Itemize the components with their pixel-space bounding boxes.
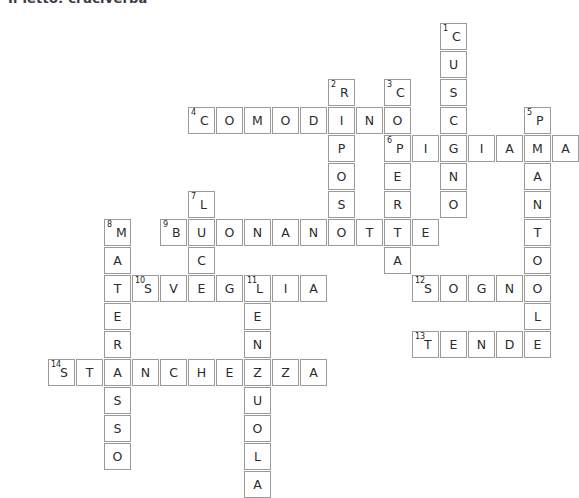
crossword-cell[interactable]: A <box>104 247 131 274</box>
crossword-cell[interactable]: U <box>188 219 215 246</box>
crossword-cell[interactable]: S <box>104 415 131 442</box>
crossword-cell[interactable]: O <box>216 219 243 246</box>
cell-letter: N <box>441 164 466 189</box>
crossword-cell[interactable]: O <box>104 443 131 470</box>
crossword-cell[interactable]: P <box>328 135 355 162</box>
crossword-cell[interactable]: D <box>300 107 327 134</box>
crossword-cell[interactable]: N <box>244 219 271 246</box>
crossword-cell[interactable]: 14S <box>48 359 75 386</box>
crossword-cell[interactable]: N <box>496 275 523 302</box>
crossword-cell[interactable]: S <box>328 191 355 218</box>
crossword-cell[interactable]: 11L <box>244 275 271 302</box>
crossword-cell[interactable]: O <box>524 247 551 274</box>
crossword-cell[interactable]: M <box>524 135 551 162</box>
crossword-cell[interactable]: A <box>104 359 131 386</box>
crossword-cell[interactable]: O <box>244 415 271 442</box>
crossword-cell[interactable]: V <box>160 275 187 302</box>
crossword-cell[interactable]: E <box>524 331 551 358</box>
crossword-cell[interactable]: N <box>440 163 467 190</box>
crossword-cell[interactable]: E <box>216 359 243 386</box>
crossword-cell[interactable]: O <box>384 107 411 134</box>
crossword-cell[interactable]: U <box>440 51 467 78</box>
crossword-cell[interactable]: E <box>104 303 131 330</box>
crossword-cell[interactable]: 3C <box>384 79 411 106</box>
crossword-cell[interactable]: 4C <box>188 107 215 134</box>
crossword-cell[interactable]: 12S <box>412 275 439 302</box>
crossword-cell[interactable]: A <box>300 275 327 302</box>
crossword-cell[interactable]: R <box>384 191 411 218</box>
crossword-cell[interactable]: T <box>76 359 103 386</box>
crossword-cell[interactable]: G <box>440 135 467 162</box>
cell-letter: E <box>189 276 214 301</box>
crossword-cell[interactable]: Z <box>272 359 299 386</box>
crossword-cell[interactable]: E <box>244 303 271 330</box>
crossword-cell[interactable]: A <box>244 471 271 498</box>
crossword-cell[interactable]: E <box>440 331 467 358</box>
cell-letter: S <box>441 80 466 105</box>
crossword-cell[interactable]: T <box>524 219 551 246</box>
crossword-cell[interactable]: T <box>104 275 131 302</box>
cell-letter: S <box>49 360 74 385</box>
crossword-cell[interactable]: I <box>468 135 495 162</box>
crossword-cell[interactable]: G <box>468 275 495 302</box>
crossword-cell[interactable]: A <box>524 163 551 190</box>
crossword-cell[interactable]: C <box>440 107 467 134</box>
crossword-cell[interactable]: 2R <box>328 79 355 106</box>
crossword-cell[interactable]: O <box>328 163 355 190</box>
crossword-cell[interactable]: S <box>104 387 131 414</box>
crossword-cell[interactable]: E <box>188 275 215 302</box>
crossword-cell[interactable]: T <box>384 219 411 246</box>
crossword-cell[interactable]: L <box>244 443 271 470</box>
crossword-cell[interactable]: N <box>356 107 383 134</box>
cell-letter: R <box>385 192 410 217</box>
crossword-cell[interactable]: I <box>272 275 299 302</box>
cell-letter: V <box>161 276 186 301</box>
crossword-cell[interactable]: 7L <box>188 191 215 218</box>
crossword-cell[interactable]: I <box>412 135 439 162</box>
crossword-cell[interactable]: Z <box>244 359 271 386</box>
crossword-cell[interactable]: D <box>496 331 523 358</box>
crossword-cell[interactable]: A <box>300 359 327 386</box>
crossword-cell[interactable]: O <box>216 107 243 134</box>
crossword-cell[interactable]: N <box>524 191 551 218</box>
crossword-cell[interactable]: A <box>272 219 299 246</box>
crossword-cell[interactable]: O <box>328 219 355 246</box>
crossword-cell[interactable]: 1C <box>440 23 467 50</box>
crossword-cell[interactable]: E <box>412 219 439 246</box>
crossword-cell[interactable]: 10S <box>132 275 159 302</box>
crossword-cell[interactable]: 6P <box>384 135 411 162</box>
crossword-cell[interactable]: H <box>188 359 215 386</box>
cell-letter: P <box>385 136 410 161</box>
crossword-cell[interactable]: T <box>356 219 383 246</box>
cell-letter: S <box>105 388 130 413</box>
crossword-cell[interactable]: E <box>384 163 411 190</box>
cell-letter: I <box>273 276 298 301</box>
crossword-cell[interactable]: 8M <box>104 219 131 246</box>
crossword-cell[interactable]: L <box>524 303 551 330</box>
crossword-cell[interactable]: I <box>328 107 355 134</box>
crossword-cell[interactable]: A <box>552 135 579 162</box>
crossword-cell[interactable]: N <box>300 219 327 246</box>
crossword-cell[interactable]: C <box>160 359 187 386</box>
crossword-cell[interactable]: M <box>244 107 271 134</box>
cell-letter: N <box>245 332 270 357</box>
crossword-cell[interactable]: O <box>440 275 467 302</box>
crossword-cell[interactable]: A <box>496 135 523 162</box>
crossword-cell[interactable]: C <box>188 247 215 274</box>
crossword-cell[interactable]: G <box>216 275 243 302</box>
crossword-cell[interactable]: 13T <box>412 331 439 358</box>
crossword-cell[interactable]: 5P <box>524 107 551 134</box>
crossword-cell[interactable]: 9B <box>160 219 187 246</box>
crossword-cell[interactable]: S <box>440 79 467 106</box>
crossword-cell[interactable]: R <box>104 331 131 358</box>
crossword-cell[interactable]: N <box>468 331 495 358</box>
cell-letter: O <box>385 108 410 133</box>
cell-letter: G <box>441 136 466 161</box>
crossword-cell[interactable]: N <box>132 359 159 386</box>
crossword-cell[interactable]: O <box>272 107 299 134</box>
crossword-cell[interactable]: O <box>440 191 467 218</box>
crossword-cell[interactable]: A <box>384 247 411 274</box>
crossword-cell[interactable]: U <box>244 387 271 414</box>
crossword-cell[interactable]: O <box>524 275 551 302</box>
crossword-cell[interactable]: N <box>244 331 271 358</box>
